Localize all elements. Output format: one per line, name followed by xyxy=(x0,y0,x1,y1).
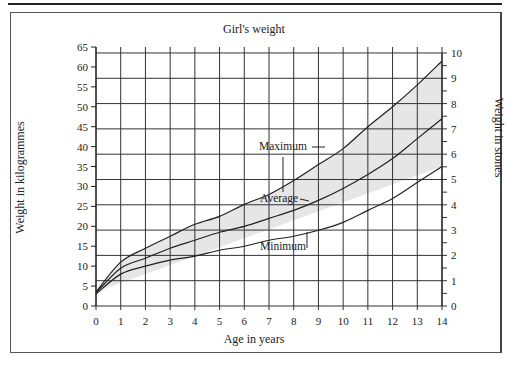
tick-label-x: 11 xyxy=(363,315,374,327)
tick-label-right: 0 xyxy=(451,300,457,312)
tick-label-left: 10 xyxy=(77,260,89,272)
tick-label-right: 3 xyxy=(451,224,457,236)
tick-label-right: 1 xyxy=(451,275,457,287)
tick-label-x: 7 xyxy=(266,315,272,327)
tick-label-x: 10 xyxy=(338,315,350,327)
tick-label-left: 25 xyxy=(77,200,89,212)
annotation-maximum-label: Maximum xyxy=(259,140,307,152)
tick-label-x: 2 xyxy=(143,315,149,327)
tick-label-left: 55 xyxy=(77,81,89,93)
tick-label-x: 6 xyxy=(242,315,248,327)
tick-label-left: 35 xyxy=(77,161,89,173)
tick-label-right: 8 xyxy=(451,98,457,110)
tick-label-right: 6 xyxy=(451,148,457,160)
annotation-average-label: Average xyxy=(260,192,298,205)
tick-label-left: 5 xyxy=(83,280,89,292)
tick-label-left: 65 xyxy=(77,41,89,53)
tick-label-right: 2 xyxy=(451,249,457,261)
tick-label-right: 7 xyxy=(451,123,457,135)
tick-label-x: 3 xyxy=(167,315,173,327)
tick-label-right: 4 xyxy=(451,199,457,211)
tick-label-right: 9 xyxy=(451,72,457,84)
tick-label-left: 40 xyxy=(77,141,89,153)
tick-label-x: 14 xyxy=(437,315,449,327)
tick-label-x: 0 xyxy=(93,315,99,327)
tick-label-x: 13 xyxy=(412,315,424,327)
tick-label-x: 12 xyxy=(387,315,398,327)
tick-label-right: 10 xyxy=(451,47,463,59)
tick-label-left: 45 xyxy=(77,121,89,133)
tick-label-left: 50 xyxy=(77,101,89,113)
tick-label-left: 0 xyxy=(83,300,89,312)
tick-label-x: 1 xyxy=(118,315,124,327)
tick-label-x: 4 xyxy=(192,315,198,327)
tick-label-left: 20 xyxy=(77,220,89,232)
tick-label-x: 8 xyxy=(291,315,297,327)
annotation-minimum-label: Minimum xyxy=(260,240,306,252)
tick-label-left: 15 xyxy=(77,240,89,252)
tick-label-right: 5 xyxy=(451,173,457,185)
plot-area: 0510152025303540455055606501234567891001… xyxy=(0,0,508,367)
tick-label-left: 30 xyxy=(77,180,89,192)
tick-label-x: 9 xyxy=(316,315,322,327)
tick-label-left: 60 xyxy=(77,61,89,73)
tick-label-x: 5 xyxy=(217,315,223,327)
